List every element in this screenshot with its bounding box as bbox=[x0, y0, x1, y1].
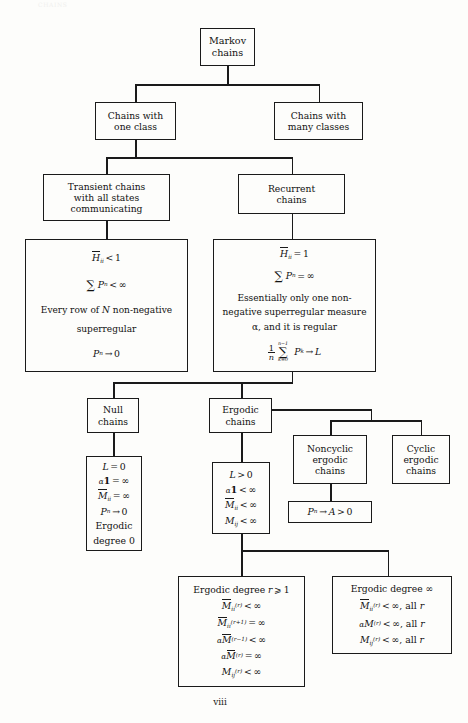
node-noncyclic-properties[interactable]: Pn→A>0 bbox=[288, 501, 372, 523]
node-ergodic-degree-r[interactable]: Ergodic degree r⩾1 Mii(r)<∞ Mii(r+1)=∞ α… bbox=[178, 576, 305, 687]
math-line-alpha-regular: α, and it is regular bbox=[252, 322, 337, 333]
node-chains-one-class[interactable]: Chains with one class bbox=[95, 102, 176, 140]
math-line-alpha1-lt-inf: α1<∞ bbox=[226, 484, 256, 495]
math-line-ergodic: Ergodic bbox=[96, 520, 133, 531]
node-transient-chains[interactable]: Transient chains with all states communi… bbox=[43, 174, 170, 221]
connector-ergodic-right bbox=[272, 409, 372, 411]
node-label-line: chains bbox=[225, 416, 255, 427]
math-line-mbar-r-all-r: Mii(r)<∞, all r bbox=[360, 600, 424, 613]
node-label-line: Noncyclic bbox=[307, 443, 353, 454]
math-line-every-row: Every row of N non-negative bbox=[41, 305, 172, 316]
node-label-line: ergodic bbox=[312, 454, 347, 465]
connector-degree-bar bbox=[241, 550, 389, 552]
connector-one-class-down bbox=[135, 140, 137, 158]
page-header-faint: CHAINS bbox=[38, 1, 68, 8]
math-line-ergodic-degree-r: Ergodic degree r⩾1 bbox=[193, 584, 289, 595]
node-recurrent-chains[interactable]: Recurrent chains bbox=[238, 174, 345, 214]
node-label-line: one class bbox=[114, 121, 157, 132]
math-line-ergodic-degree-inf: Ergodic degree ∞ bbox=[351, 583, 433, 594]
node-noncyclic-ergodic-chains[interactable]: Noncyclic ergodic chains bbox=[293, 435, 367, 484]
node-label-line: Cyclic bbox=[407, 443, 435, 454]
node-label-line: chains bbox=[212, 47, 243, 59]
math-line-mbar-r-lt-inf: Mii(r)<∞ bbox=[222, 600, 261, 613]
node-cyclic-ergodic-chains[interactable]: Cyclic ergodic chains bbox=[392, 435, 450, 484]
connector-to-degree-r bbox=[241, 550, 243, 576]
node-ergodic-chains[interactable]: Ergodic chains bbox=[209, 398, 272, 433]
node-label-line: chains bbox=[315, 465, 345, 476]
page-number: viii bbox=[200, 697, 240, 707]
node-null-properties[interactable]: L=0 α1=∞ Mii=∞ Pn→0 Ergodic degree 0 bbox=[86, 456, 142, 551]
node-label-line: chains bbox=[276, 194, 306, 205]
node-markov-chains[interactable]: Markov chains bbox=[200, 28, 255, 66]
math-line-hbar-eq-1: Hii=1 bbox=[280, 248, 309, 261]
node-label-line: Chains with bbox=[108, 110, 163, 121]
math-line-pn-to-A: Pn→A>0 bbox=[308, 506, 353, 517]
math-line-L-eq-0: L=0 bbox=[102, 461, 125, 472]
math-line-sum-pn-lt-inf: ∑ Pn<∞ bbox=[86, 278, 126, 292]
node-label-line: many classes bbox=[288, 121, 349, 132]
node-transient-properties[interactable]: Hii<1 ∑ Pn<∞ Every row of N non-negative… bbox=[25, 239, 188, 372]
connector-to-noncyclic bbox=[330, 420, 332, 435]
connector-to-null bbox=[113, 382, 115, 398]
math-line-m-ij-r-all-r: Mij(r)<∞, all r bbox=[360, 634, 424, 647]
math-line-mbar-eq-inf: Mii=∞ bbox=[98, 490, 130, 503]
connector-to-cyclic bbox=[421, 420, 423, 435]
math-line-alpha-m-r-all-r: αM(r)<∞, all r bbox=[359, 618, 425, 629]
connector-level2-bar bbox=[106, 157, 293, 159]
connector-null-down bbox=[113, 433, 115, 456]
node-recurrent-properties[interactable]: Hii=1 ∑ Pn=∞ Essentially only one non- n… bbox=[213, 239, 376, 372]
math-line-hbar-lt-1: Hii<1 bbox=[92, 252, 121, 265]
node-chains-many-classes[interactable]: Chains with many classes bbox=[274, 102, 363, 140]
math-line-superregular: superregular bbox=[77, 324, 137, 335]
math-line-mbar-ii-lt-inf: Mii<∞ bbox=[225, 499, 257, 512]
math-line-degree-0: degree 0 bbox=[93, 535, 135, 546]
connector-to-recurrent bbox=[292, 157, 294, 174]
math-line-essentially: Essentially only one non- bbox=[237, 293, 351, 304]
connector-noncyclic-down bbox=[330, 484, 332, 501]
math-line-negative-super: negative superregular measure bbox=[223, 307, 367, 318]
math-line-alpha1-eq-inf: α1=∞ bbox=[99, 475, 129, 486]
math-line-pn-to-0-null: Pn→0 bbox=[100, 506, 127, 517]
node-label-line: Markov bbox=[209, 35, 246, 47]
node-label-line: Recurrent bbox=[268, 183, 315, 194]
connector-ergodic-props-down bbox=[241, 534, 243, 551]
node-ergodic-degree-infinity[interactable]: Ergodic degree ∞ Mii(r)<∞, all r αM(r)<∞… bbox=[332, 576, 452, 654]
node-null-chains[interactable]: Null chains bbox=[87, 398, 139, 433]
flowchart-page: CHAINS Markov chains Chains with one cla… bbox=[0, 0, 468, 723]
node-label-line: Chains with bbox=[291, 110, 346, 121]
connector-to-transient bbox=[106, 157, 108, 174]
math-line-L-gt-0: L>0 bbox=[229, 469, 252, 480]
math-line-mbar-r1-eq-inf: Mii(r+1)=∞ bbox=[218, 617, 266, 630]
connector-to-degree-inf bbox=[388, 550, 390, 576]
math-line-alpha-mbar-rm1-lt-inf: αM(r−1)<∞ bbox=[217, 634, 266, 645]
node-label-line: ergodic bbox=[403, 454, 438, 465]
connector-ergodic-down bbox=[241, 433, 243, 462]
node-label-line: chains bbox=[406, 465, 436, 476]
math-line-alpha-mbar-r-eq-inf: αM(r)=∞ bbox=[221, 650, 262, 661]
connector-transient-down bbox=[106, 221, 108, 239]
node-ergodic-properties[interactable]: L>0 α1<∞ Mii<∞ Mij<∞ bbox=[212, 462, 270, 534]
node-label-line: chains bbox=[98, 416, 128, 427]
connector-root-down bbox=[227, 66, 229, 85]
node-label-line: with all states bbox=[74, 192, 139, 203]
math-line-m-ij-lt-inf: Mij<∞ bbox=[225, 515, 257, 528]
math-line-cesaro-limit: 1n n−1∑k=0 Pk→L bbox=[268, 342, 321, 363]
connector-to-one-class bbox=[135, 84, 137, 102]
connector-to-many-classes bbox=[319, 84, 321, 102]
math-line-sum-pn-eq-inf: ∑ Pn=∞ bbox=[274, 269, 314, 283]
math-line-pn-to-0: Pn→0 bbox=[93, 348, 120, 359]
connector-to-ergodic bbox=[241, 382, 243, 398]
math-line-m-ij-r-lt-inf: Mij(r)<∞ bbox=[222, 666, 261, 679]
node-label-line: Null bbox=[103, 404, 123, 415]
connector-recurrent-down bbox=[292, 214, 294, 239]
connector-cyclic-bar bbox=[330, 420, 422, 422]
connector-level4-bar bbox=[113, 382, 293, 384]
node-label-line: communicating bbox=[71, 203, 143, 214]
node-label-line: Transient chains bbox=[68, 181, 146, 192]
connector-level1-bar bbox=[135, 84, 320, 86]
node-label-line: Ergodic bbox=[222, 404, 258, 415]
